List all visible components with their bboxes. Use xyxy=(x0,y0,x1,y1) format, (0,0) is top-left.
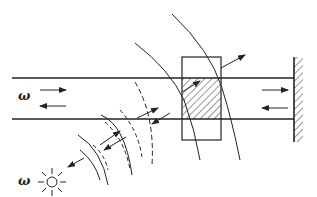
diagram-canvas: ω ω xyxy=(0,0,317,197)
omega-tube-label: ω xyxy=(18,88,30,103)
tube-arrows-right xyxy=(262,90,288,108)
waveguide-tube xyxy=(12,78,294,119)
sample-block xyxy=(182,57,221,140)
point-source xyxy=(38,168,66,196)
omega-source-label: ω xyxy=(18,173,30,188)
diagram-svg xyxy=(0,0,317,197)
reflecting-wall xyxy=(294,57,303,142)
tube-arrows-left xyxy=(40,90,66,106)
